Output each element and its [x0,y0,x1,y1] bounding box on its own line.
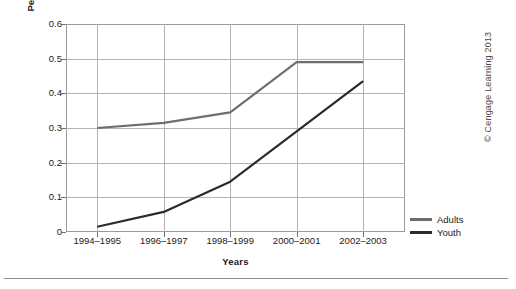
x-tick-label: 1998–1999 [206,236,254,246]
series-line-youth [97,81,363,227]
y-tick-label: 0.3 [38,123,62,133]
legend-swatch-adults [410,218,432,221]
y-tick-label: 0.2 [38,158,62,168]
legend-swatch-youth [410,231,432,234]
bipolar-office-visits-chart-figure: Percentage of office visits for bipolar … [0,0,516,289]
plot-area [66,24,405,232]
x-axis-title: Years [66,256,405,267]
legend-item-adults[interactable]: Adults [410,213,480,226]
series-line-adults [97,62,363,128]
x-tick-label: 1996–1997 [140,236,188,246]
series-lines [66,24,405,232]
legend-label: Adults [437,215,463,225]
legend-item-youth[interactable]: Youth [410,226,480,239]
y-tick-mark [61,232,66,233]
legend-label: Youth [437,228,461,238]
y-tick-label: 0.5 [38,54,62,64]
copyright-credit: © Cengage Learning 2013 [481,12,495,142]
y-tick-label: 0.1 [38,193,62,203]
y-tick-label: 0.4 [38,89,62,99]
page-divider-rule [4,278,508,279]
x-tick-label: 1994–1995 [73,236,121,246]
chart-legend: AdultsYouth [410,213,480,239]
x-tick-label: 2000–2001 [273,236,321,246]
y-tick-label: 0.6 [38,19,62,29]
x-tick-label: 2002–2003 [339,236,387,246]
